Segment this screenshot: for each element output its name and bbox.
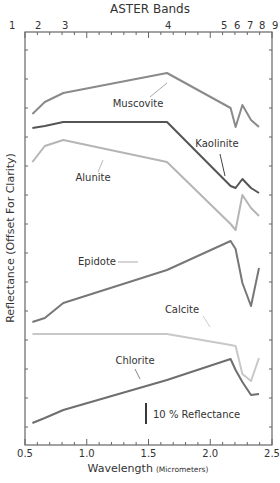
- leader-arrow: [150, 83, 167, 97]
- chart-title: ASTER Bands: [110, 2, 190, 16]
- band-label: 6: [234, 20, 240, 31]
- series-label-muscovite: Muscovite: [113, 98, 164, 109]
- x-tick-label: 1.0: [79, 448, 95, 459]
- x-axis-label: Wavelength(Micrometers): [88, 462, 209, 475]
- series-lines: [32, 73, 259, 423]
- aster-reflectance-chart: ASTER Bands 123456789 MuscoviteKaolinite…: [0, 0, 280, 483]
- band-label: 3: [62, 20, 68, 31]
- band-label: 5: [221, 20, 227, 31]
- band-label: 7: [247, 20, 253, 31]
- series-label-kaolinite: Kaolinite: [195, 138, 238, 149]
- leader-arrow: [135, 369, 140, 379]
- leader-arrow: [98, 160, 103, 172]
- band-label: 4: [165, 20, 171, 31]
- x-tick-label: 2.0: [202, 448, 218, 459]
- band-label: 9: [272, 20, 278, 31]
- band-label: 1: [9, 20, 15, 31]
- x-tick-label: 0.5: [17, 448, 33, 459]
- x-axis-label-unit: (Micrometers): [156, 465, 209, 474]
- scale-bar: 10 % Reflectance: [146, 403, 240, 424]
- band-label: 2: [35, 20, 41, 31]
- band-label: 8: [259, 20, 265, 31]
- x-axis-label-main: Wavelength: [88, 462, 153, 475]
- series-label-calcite: Calcite: [165, 304, 199, 315]
- series-line-alunite: [32, 140, 259, 230]
- series-label-chlorite: Chlorite: [115, 355, 154, 366]
- scale-bar-label: 10 % Reflectance: [153, 409, 240, 420]
- series-label-epidote: Epidote: [78, 256, 116, 267]
- x-tick-label: 1.5: [141, 448, 157, 459]
- leader-arrow: [220, 154, 225, 176]
- series-line-epidote: [32, 241, 259, 322]
- y-axis-label: Reflectance (Offset For Clarity): [4, 153, 17, 323]
- x-tick-label: 2.5: [264, 448, 280, 459]
- leader-arrow: [203, 316, 210, 327]
- x-tick-labels: 0.51.01.52.02.5: [17, 448, 280, 459]
- series-label-alunite: Alunite: [75, 172, 110, 183]
- top-axis-band-labels: 123456789: [9, 20, 278, 31]
